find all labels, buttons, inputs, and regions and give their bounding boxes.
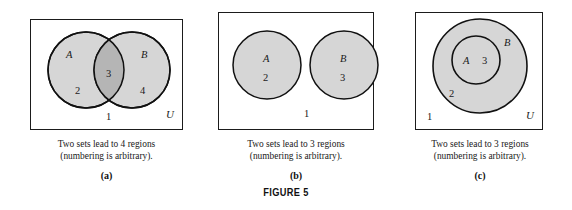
panel-b-region-2-label: 2 xyxy=(263,73,268,84)
panel-b-caption-line-1: Two sets lead to 3 regions xyxy=(201,139,391,151)
panel-c-letter: (c) xyxy=(388,170,572,181)
panel-b-venn-diagram xyxy=(219,13,375,131)
figure-5-container: A B 2 3 4 1 U Two sets lead to 4 regions… xyxy=(0,0,572,210)
panel-b-set-b-label: B xyxy=(340,54,346,65)
panel-a-region-1-label: 1 xyxy=(106,112,111,123)
panel-a-universe-box: A B 2 3 4 1 U xyxy=(30,19,183,130)
panel-b-letter: (b) xyxy=(201,170,391,181)
set-a-circle xyxy=(452,36,500,84)
panel-a-universe-label: U xyxy=(166,109,174,120)
panel-b-universe-box: A 2 B 3 1 xyxy=(218,12,374,130)
panel-a: A B 2 3 4 1 U Two sets lead to 4 regions… xyxy=(0,0,200,210)
panel-a-caption-line-2: (numbering is arbitrary). xyxy=(14,151,199,163)
panel-a-set-b-label: B xyxy=(141,50,147,61)
figure-number-label: FIGURE 5 xyxy=(242,186,330,198)
panel-a-region-2-label: 2 xyxy=(75,86,80,97)
panel-b: A 2 B 3 1 Two sets lead to 3 regions (nu… xyxy=(190,0,385,210)
panel-c-region-1-label: 1 xyxy=(427,112,432,123)
set-a-circle xyxy=(233,31,301,99)
panel-c-caption-line-1: Two sets lead to 3 regions xyxy=(388,139,572,151)
panel-b-set-a-label: A xyxy=(263,54,269,65)
panel-c-set-a-label: A xyxy=(463,56,469,67)
panel-a-region-3-label: 3 xyxy=(106,69,111,80)
panel-c-set-b-label: B xyxy=(504,38,510,49)
panel-c-universe-box: B A 3 2 1 U xyxy=(415,12,543,130)
panel-c-universe-label: U xyxy=(526,110,534,121)
panel-a-caption-line-1: Two sets lead to 4 regions xyxy=(14,139,199,151)
panel-c: B A 3 2 1 U Two sets lead to 3 regions (… xyxy=(380,0,572,210)
panel-a-set-a-label: A xyxy=(66,50,72,61)
panel-a-region-4-label: 4 xyxy=(140,86,145,97)
panel-c-caption-line-2: (numbering is arbitrary). xyxy=(388,151,572,163)
panel-b-region-3-label: 3 xyxy=(340,73,345,84)
panel-b-region-1-label: 1 xyxy=(304,109,309,120)
panel-c-region-2-label: 2 xyxy=(449,89,454,100)
panel-b-caption: Two sets lead to 3 regions (numbering is… xyxy=(201,139,391,163)
panel-c-region-3-label: 3 xyxy=(482,56,487,67)
panel-c-caption: Two sets lead to 3 regions (numbering is… xyxy=(388,139,572,163)
panel-a-letter: (a) xyxy=(14,170,199,181)
panel-c-venn-diagram xyxy=(416,13,544,131)
panel-a-caption: Two sets lead to 4 regions (numbering is… xyxy=(14,139,199,163)
panel-b-caption-line-2: (numbering is arbitrary). xyxy=(201,151,391,163)
set-b-circle xyxy=(310,31,378,99)
